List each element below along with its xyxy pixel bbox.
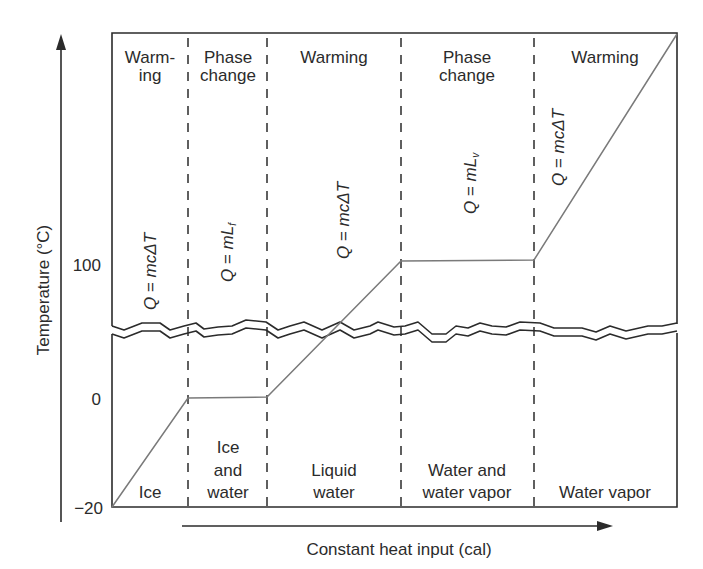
equation-2: Q = mLf (218, 222, 238, 282)
state-label-liquid-1: Liquid (311, 461, 356, 480)
y-tick-0: 0 (92, 390, 101, 409)
process-labels: Warm- ing Phase change Warming Phase cha… (125, 48, 639, 85)
region-dividers (188, 38, 534, 507)
equation-1: Q = mcΔT (141, 231, 160, 310)
y-tick-minus-20: −20 (74, 499, 103, 518)
x-axis (182, 521, 613, 531)
state-label-ice: Ice (139, 483, 162, 502)
process-label-2b: change (200, 66, 256, 85)
x-axis-label: Constant heat input (cal) (306, 540, 491, 559)
equations: Q = mcΔT Q = mLf Q = mcΔT Q = mLv Q = mc… (141, 107, 568, 310)
heating-curve-diagram: Temperature (°C) 100 0 −20 Warm- ing Pha… (0, 0, 703, 569)
state-label-vapor: Water vapor (559, 483, 651, 502)
y-axis-label: Temperature (°C) (34, 225, 53, 356)
y-axis-arrow-icon (56, 34, 66, 50)
x-axis-arrow-icon (597, 521, 613, 531)
state-label-ice-water-3: water (206, 483, 249, 502)
process-label-1a: Warm- (125, 48, 175, 67)
state-label-ice-water-2: and (214, 461, 242, 480)
temperature-curve (112, 34, 677, 507)
process-label-3: Warming (300, 48, 367, 67)
state-label-liquid-2: water (312, 483, 355, 502)
state-label-ice-water-1: Ice (217, 438, 240, 457)
process-label-2a: Phase (204, 48, 252, 67)
y-tick-100: 100 (73, 256, 101, 275)
process-label-5: Warming (571, 48, 638, 67)
y-axis (56, 34, 66, 522)
process-label-1b: ing (139, 66, 162, 85)
state-labels: Ice Ice and water Liquid water Water and… (139, 438, 652, 502)
equation-5: Q = mcΔT (549, 107, 568, 186)
process-label-4a: Phase (443, 48, 491, 67)
equation-3: Q = mcΔT (334, 180, 353, 259)
state-label-water-vapor-mix-2: water vapor (422, 483, 512, 502)
state-label-water-vapor-mix-1: Water and (428, 461, 506, 480)
plot-frame (112, 33, 677, 507)
equation-4: Q = mLv (461, 152, 481, 214)
process-label-4b: change (439, 66, 495, 85)
axis-break (112, 320, 677, 342)
